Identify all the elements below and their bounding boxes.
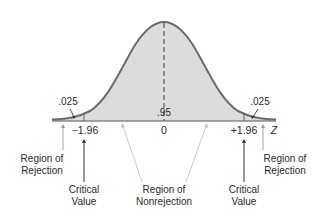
right-rejection-label: Region of Rejection	[257, 153, 313, 176]
left-rejection-label: Region of Rejection	[14, 153, 70, 176]
right-rejection-arrowhead	[261, 124, 265, 128]
nonrejection-arrowhead-right	[204, 123, 208, 128]
right-tail-pointer	[253, 109, 258, 117]
left-tail-pointer	[70, 109, 74, 117]
left-critical-arrowhead	[82, 139, 86, 143]
right-tail-area-label: .025	[248, 96, 272, 107]
nonrejection-arrow-left	[123, 126, 142, 182]
center-area-label: .95	[152, 107, 176, 118]
left-tail-area-label: .025	[56, 96, 80, 107]
right-critical-label: Critical Value	[222, 184, 266, 207]
left-rejection-arrowhead	[61, 124, 65, 128]
tick-neg-critical: −1.96	[68, 125, 102, 136]
nonrejection-arrow-right	[186, 126, 206, 182]
tick-zero: 0	[156, 125, 172, 136]
nonrejection-arrowhead-left	[121, 123, 125, 128]
axis-variable-z: Z	[268, 125, 280, 136]
tick-pos-critical: +1.96	[227, 125, 261, 136]
right-critical-arrowhead	[242, 139, 246, 143]
nonrejection-label: Region of Nonrejection	[130, 184, 198, 207]
left-critical-label: Critical Value	[62, 184, 106, 207]
